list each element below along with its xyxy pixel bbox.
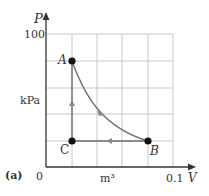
process-a-to-b <box>72 61 148 141</box>
point-c-label: C <box>60 143 69 157</box>
point-a-label: A <box>57 53 67 67</box>
x-axis-symbol: V <box>188 171 198 185</box>
point-a <box>68 57 75 64</box>
panel-label: (a) <box>5 169 23 182</box>
direction-arrows <box>69 100 112 144</box>
y-unit-label: kPa <box>20 94 41 107</box>
x-unit-label: m³ <box>100 172 115 185</box>
cycle-path <box>72 61 148 141</box>
pv-diagram: P 100 kPa 0 m³ 0.1 V (a) A B C <box>0 0 209 196</box>
state-points <box>68 57 151 144</box>
arrow-c-to-a-icon <box>69 100 75 106</box>
y-axis-arrow-icon <box>43 12 50 20</box>
x-origin-label: 0 <box>36 170 43 183</box>
y-axis-symbol: P <box>33 11 43 26</box>
y-max-label: 100 <box>24 28 45 41</box>
point-b-label: B <box>149 144 159 158</box>
x-axis-arrow-icon <box>188 164 196 171</box>
x-max-label: 0.1 <box>166 172 184 185</box>
point-c <box>68 137 75 144</box>
arrow-b-to-c-icon <box>106 138 112 144</box>
